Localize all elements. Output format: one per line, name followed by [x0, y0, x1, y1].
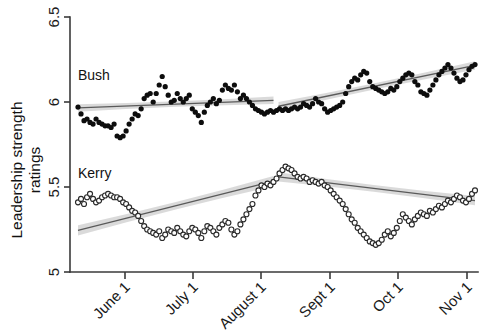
- data-point-bush: [75, 105, 80, 110]
- data-point-bush: [202, 110, 207, 115]
- y-axis-title-group: Leadership strength ratings: [8, 101, 43, 238]
- data-point-kerry: [385, 229, 390, 234]
- data-point-bush: [139, 106, 144, 111]
- data-point-bush: [163, 84, 168, 89]
- data-point-bush: [472, 62, 477, 67]
- data-point-bush: [424, 93, 429, 98]
- data-point-bush: [187, 93, 192, 98]
- data-point-bush: [319, 101, 324, 106]
- data-point-bush: [343, 91, 348, 96]
- data-point-bush: [415, 82, 420, 87]
- data-point-bush: [151, 99, 156, 104]
- data-point-kerry: [199, 236, 204, 241]
- x-tick-label: August 1: [215, 278, 269, 332]
- data-point-kerry: [163, 232, 168, 237]
- data-point-kerry: [226, 220, 231, 225]
- data-point-kerry: [172, 230, 177, 235]
- data-point-bush: [394, 84, 399, 89]
- data-point-bush: [364, 71, 369, 76]
- data-point-kerry: [379, 237, 384, 242]
- data-point-bush: [409, 72, 414, 77]
- data-point-kerry: [250, 202, 255, 207]
- chart-canvas: Leadership strength ratings 55.566.5 Jun…: [0, 0, 487, 335]
- x-tick-label: July 1: [161, 278, 201, 318]
- x-tick-label: Sept 1: [295, 278, 338, 321]
- data-point-kerry: [424, 213, 429, 218]
- y-tick-label: 6: [45, 98, 62, 106]
- data-point-bush: [121, 133, 126, 138]
- data-point-bush: [124, 128, 129, 133]
- data-point-bush: [136, 113, 141, 118]
- data-point-bush: [160, 74, 165, 79]
- data-point-bush: [130, 116, 135, 121]
- data-point-kerry: [196, 230, 201, 235]
- data-point-bush: [229, 88, 234, 93]
- data-point-kerry: [79, 196, 84, 201]
- data-point-kerry: [253, 193, 258, 198]
- data-point-bush: [355, 77, 360, 82]
- data-point-kerry: [184, 234, 189, 239]
- data-point-kerry: [235, 229, 240, 234]
- data-point-bush: [175, 91, 180, 96]
- data-point-bush: [148, 91, 153, 96]
- series-annotation-kerry: Kerry: [78, 165, 111, 181]
- data-point-kerry: [244, 212, 249, 217]
- data-point-bush: [235, 89, 240, 94]
- series-annotation-bush: Bush: [78, 67, 110, 83]
- data-point-kerry: [256, 188, 261, 193]
- data-point-bush: [460, 77, 465, 82]
- data-point-bush: [217, 98, 222, 103]
- data-point-kerry: [157, 229, 162, 234]
- data-point-bush: [211, 96, 216, 101]
- data-point-bush: [427, 88, 432, 93]
- data-point-bush: [367, 79, 372, 84]
- data-point-kerry: [352, 220, 357, 225]
- data-point-kerry: [394, 225, 399, 230]
- data-point-kerry: [82, 202, 87, 207]
- data-point-kerry: [247, 207, 252, 212]
- data-point-bush: [310, 101, 315, 106]
- data-point-bush: [127, 122, 132, 127]
- data-point-kerry: [214, 232, 219, 237]
- data-point-bush: [157, 82, 162, 87]
- x-tick-label: Nov 1: [435, 278, 475, 318]
- data-point-bush: [430, 82, 435, 87]
- data-point-kerry: [391, 230, 396, 235]
- data-point-bush: [463, 72, 468, 77]
- data-point-bush: [199, 120, 204, 125]
- data-point-bush: [78, 111, 83, 116]
- data-point-kerry: [274, 176, 279, 181]
- data-point-kerry: [397, 219, 402, 224]
- data-point-kerry: [139, 219, 144, 224]
- data-point-bush: [196, 113, 201, 118]
- y-axis: 55.566.5: [45, 7, 70, 277]
- data-point-bush: [154, 91, 159, 96]
- data-point-bush: [166, 93, 171, 98]
- y-axis-title-line1: Leadership strength: [8, 101, 25, 238]
- regression-fits-layer: [78, 61, 475, 235]
- data-point-bush: [232, 82, 237, 87]
- data-point-kerry: [202, 229, 207, 234]
- x-tick-label: June 1: [89, 278, 133, 322]
- regression-line: [78, 181, 273, 230]
- data-point-kerry: [340, 202, 345, 207]
- data-point-kerry: [238, 222, 243, 227]
- data-point-kerry: [88, 191, 93, 196]
- data-point-bush: [340, 99, 345, 104]
- y-tick-label: 5.5: [45, 177, 62, 198]
- data-point-kerry: [473, 188, 478, 193]
- data-point-kerry: [466, 196, 471, 201]
- x-tick-label: Oct 1: [369, 278, 406, 315]
- y-tick-label: 6.5: [45, 7, 62, 28]
- data-point-bush: [111, 122, 116, 127]
- data-point-bush: [346, 84, 351, 89]
- y-tick-label: 5: [45, 268, 62, 276]
- regression-line: [279, 65, 475, 106]
- data-point-bush: [448, 65, 453, 70]
- y-axis-title-line2: ratings: [26, 146, 43, 193]
- data-point-kerry: [229, 227, 234, 232]
- data-point-bush: [172, 98, 177, 103]
- leadership-strength-chart: Leadership strength ratings 55.566.5 Jun…: [0, 0, 487, 335]
- data-point-bush: [220, 88, 225, 93]
- data-point-kerry: [409, 222, 414, 227]
